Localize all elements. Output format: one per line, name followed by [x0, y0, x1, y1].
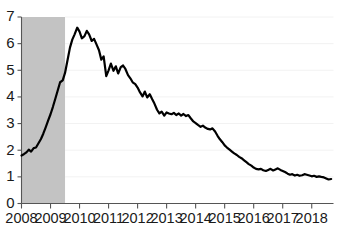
x-axis-tick-label: 2010: [63, 210, 95, 226]
x-axis-tick-label: 2009: [34, 210, 66, 226]
x-axis-tick-label: 2011: [93, 210, 124, 226]
y-axis-tick-label: 4: [6, 87, 14, 104]
chart-container: 01234567 2008200920102011201220132014201…: [0, 0, 340, 235]
x-axis-tick-label: 2015: [209, 210, 241, 226]
x-axis-tick-label: 2018: [296, 210, 328, 226]
x-axis-ticks-group: [22, 204, 312, 209]
y-axis-ticks-group: [18, 17, 22, 204]
x-axis-tick-label: 2013: [150, 210, 182, 226]
x-axis-labels-group: 2008200920102011201220132014201520162017…: [5, 210, 327, 226]
x-axis-tick-label: 2014: [180, 210, 212, 226]
x-axis-tick-label: 2017: [267, 210, 299, 226]
y-axis-tick-label: 0: [6, 194, 14, 211]
y-axis-tick-label: 5: [6, 61, 14, 78]
y-axis-tick-label: 2: [6, 141, 14, 158]
line-chart: 01234567 2008200920102011201220132014201…: [0, 0, 340, 235]
x-axis-tick-label: 2016: [238, 210, 270, 226]
recession-shading-band: [22, 17, 66, 204]
y-axis-labels-group: 01234567: [6, 7, 14, 211]
y-axis-tick-label: 7: [6, 7, 14, 24]
x-axis-tick-label: 2012: [121, 210, 153, 226]
x-axis-tick-label: 2008: [5, 210, 37, 226]
recession-shading-group: [22, 17, 66, 204]
y-axis-tick-label: 6: [6, 34, 14, 51]
data-series-line: [22, 28, 332, 180]
gridlines-group: [65, 17, 333, 177]
y-axis-tick-label: 3: [6, 114, 14, 131]
y-axis-tick-label: 1: [6, 167, 14, 184]
